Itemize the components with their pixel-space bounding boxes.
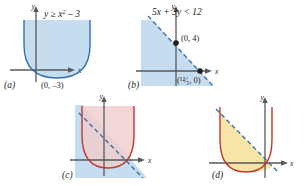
- panel-d-label: (d): [212, 170, 223, 181]
- panel-c: x y (c): [62, 92, 152, 181]
- panel-b-label: (b): [128, 80, 139, 91]
- panel-a-y-axis-label: y: [31, 2, 36, 11]
- panel-b-equation: 5x + 3y < 12: [152, 7, 202, 17]
- panel-a-vertex-label: (0, –3): [41, 80, 64, 90]
- panel-c-y-axis-label: y: [99, 92, 104, 101]
- panel-c-x-axis-label: x: [147, 156, 152, 165]
- panel-a: x y y ≥ x2 – 3 (0, –3) (a): [4, 2, 90, 91]
- panel-b-x-axis-label: x: [214, 67, 219, 76]
- inequality-system-figure: x y y ≥ x2 – 3 (0, –3) (a) x y: [0, 0, 306, 186]
- panel-b-y-intercept-point: [173, 40, 179, 46]
- panel-c-shaded-regions: [75, 105, 147, 178]
- panel-a-label: (a): [4, 80, 15, 91]
- panel-b-x-intercept-point: [197, 68, 203, 74]
- panel-d-x-axis-label: x: [289, 159, 294, 168]
- panel-b: x y 5x + 3y < 12 (0, 4) (¹²⁄₅, 0) (b): [128, 2, 219, 91]
- panel-d-y-axis-label: y: [260, 93, 265, 102]
- panel-d: x y (d): [209, 93, 294, 181]
- panel-b-x-intercept-label: (¹²⁄₅, 0): [177, 75, 201, 85]
- panel-a-equation: y ≥ x2 – 3: [43, 8, 80, 20]
- panel-b-y-intercept-label: (0, 4): [181, 33, 200, 43]
- panel-c-label: (c): [62, 170, 73, 181]
